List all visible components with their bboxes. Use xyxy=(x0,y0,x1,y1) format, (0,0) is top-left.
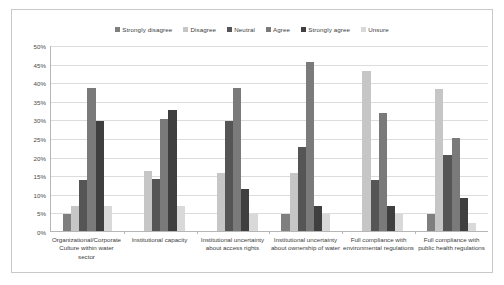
bar-groups xyxy=(51,46,488,231)
x-axis-category-label-line: sector xyxy=(51,253,122,261)
legend-swatch-icon xyxy=(301,27,306,32)
y-axis-tick-label: 50% xyxy=(34,43,46,50)
legend-item-label: Strongly agree xyxy=(308,26,350,33)
y-axis-tick-label: 20% xyxy=(34,154,46,161)
x-axis-category-label: Institutional uncertaintyabout ownership… xyxy=(269,236,342,261)
bar[interactable] xyxy=(290,173,298,231)
x-axis-category-label-line: about ownership of water xyxy=(270,244,341,252)
legend-swatch-icon xyxy=(115,27,120,32)
bar[interactable] xyxy=(379,113,387,231)
bar[interactable] xyxy=(452,138,460,231)
bar[interactable] xyxy=(241,189,249,231)
legend-swatch-icon xyxy=(227,27,232,32)
bar[interactable] xyxy=(233,88,241,231)
legend-item-label: Unsure xyxy=(368,26,389,33)
bar[interactable] xyxy=(217,173,225,231)
bar-group xyxy=(124,46,197,231)
bar[interactable] xyxy=(144,171,152,231)
x-axis-category-label-line: Culture within water xyxy=(51,244,122,252)
bar[interactable] xyxy=(177,206,185,231)
legend-item[interactable]: Disagree xyxy=(183,26,216,33)
bar[interactable] xyxy=(79,180,87,231)
bar[interactable] xyxy=(362,71,370,231)
legend-item-label: Strongly disagree xyxy=(122,26,172,33)
bar[interactable] xyxy=(371,180,379,231)
bar[interactable] xyxy=(395,214,403,231)
y-axis-tick-label: 35% xyxy=(34,98,46,105)
y-axis-tick-label: 45% xyxy=(34,61,46,68)
y-axis-tick-label: 30% xyxy=(34,117,46,124)
x-axis-category-label-line: about access rights xyxy=(197,244,268,252)
bar[interactable] xyxy=(281,214,289,231)
plot-area xyxy=(50,46,488,232)
x-axis-category-label-line: Institutional uncertainty xyxy=(270,236,341,244)
bar-group xyxy=(197,46,270,231)
bar[interactable] xyxy=(152,179,160,231)
x-axis-category-label-line: Institutional uncertainty xyxy=(197,236,268,244)
legend-item[interactable]: Unsure xyxy=(361,26,389,33)
y-axis: 0%5%10%15%20%25%30%35%40%45%50% xyxy=(20,46,48,232)
legend-item[interactable]: Strongly agree xyxy=(301,26,350,33)
bar[interactable] xyxy=(71,206,79,231)
y-axis-tick-label: 10% xyxy=(34,191,46,198)
bar-group xyxy=(51,46,124,231)
x-axis-category-label: Full compliance withpublic health regula… xyxy=(415,236,488,261)
legend-item[interactable]: Strongly disagree xyxy=(115,26,172,33)
y-axis-tick-label: 0% xyxy=(37,229,46,236)
bar[interactable] xyxy=(322,214,330,231)
x-axis-category-label-line: Organizational/Corporate xyxy=(51,236,122,244)
x-axis-category-label-line: Institutional capacity xyxy=(124,236,195,244)
x-axis-category-label: Full compliance withenvironmental regula… xyxy=(342,236,415,261)
bar[interactable] xyxy=(306,62,314,231)
bar-group xyxy=(342,46,415,231)
bar[interactable] xyxy=(443,155,451,231)
x-axis-category-label-line: public health regulations xyxy=(416,244,487,252)
x-axis-category-label: Organizational/CorporateCulture within w… xyxy=(50,236,123,261)
x-axis-category-label-line: Full compliance with xyxy=(416,236,487,244)
legend-item-label: Disagree xyxy=(190,26,216,33)
bar[interactable] xyxy=(468,223,476,231)
x-axis-category-label: Institutional uncertaintyabout access ri… xyxy=(196,236,269,261)
chart-frame: Strongly disagreeDisagreeNeutralAgreeStr… xyxy=(11,9,493,273)
bar[interactable] xyxy=(63,214,71,231)
legend-item[interactable]: Neutral xyxy=(227,26,255,33)
bar[interactable] xyxy=(249,214,257,231)
x-axis-category-label-line: Full compliance with xyxy=(343,236,414,244)
bar-group xyxy=(269,46,342,231)
bar[interactable] xyxy=(104,206,112,231)
plot-wrapper: 0%5%10%15%20%25%30%35%40%45%50% Organiza… xyxy=(12,46,494,274)
x-axis-labels: Organizational/CorporateCulture within w… xyxy=(50,236,488,261)
bar[interactable] xyxy=(160,119,168,231)
y-axis-tick-label: 25% xyxy=(34,136,46,143)
legend-swatch-icon xyxy=(183,27,188,32)
bar[interactable] xyxy=(298,147,306,231)
legend-swatch-icon xyxy=(266,27,271,32)
chart-legend: Strongly disagreeDisagreeNeutralAgreeStr… xyxy=(12,26,492,33)
bar[interactable] xyxy=(314,206,322,231)
legend-item-label: Neutral xyxy=(234,26,255,33)
x-axis-category-label: Institutional capacity xyxy=(123,236,196,261)
bar[interactable] xyxy=(225,121,233,231)
bar[interactable] xyxy=(96,121,104,231)
x-axis-category-label-line: environmental regulations xyxy=(343,244,414,252)
y-axis-tick-label: 40% xyxy=(34,80,46,87)
legend-swatch-icon xyxy=(361,27,366,32)
y-axis-tick-label: 15% xyxy=(34,173,46,180)
legend-item-label: Agree xyxy=(273,26,290,33)
bar-group xyxy=(415,46,488,231)
bar[interactable] xyxy=(435,89,443,231)
bar[interactable] xyxy=(168,110,176,231)
bar[interactable] xyxy=(427,214,435,231)
bar[interactable] xyxy=(387,206,395,231)
y-axis-tick-label: 5% xyxy=(37,210,46,217)
bar[interactable] xyxy=(460,198,468,231)
bar[interactable] xyxy=(87,88,95,231)
legend-item[interactable]: Agree xyxy=(266,26,290,33)
